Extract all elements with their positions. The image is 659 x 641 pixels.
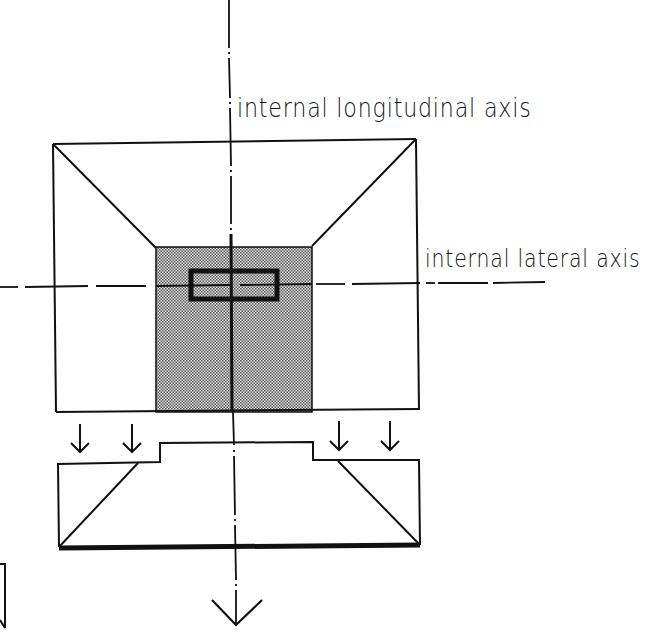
longitudinal-axis-label: internal longitudinal axis [237,92,532,123]
arrow-down-icon [71,424,89,452]
edge-fragment [0,564,5,628]
direction-arrow-icon [212,600,262,625]
arrow-down-icon [381,421,399,450]
lateral-axis-label: internal lateral axis [425,244,641,273]
arrow-down-icon [330,421,348,450]
load-arrows [71,421,399,452]
section-view [58,442,420,547]
arrow-down-icon [123,424,141,452]
section-base [59,545,420,548]
